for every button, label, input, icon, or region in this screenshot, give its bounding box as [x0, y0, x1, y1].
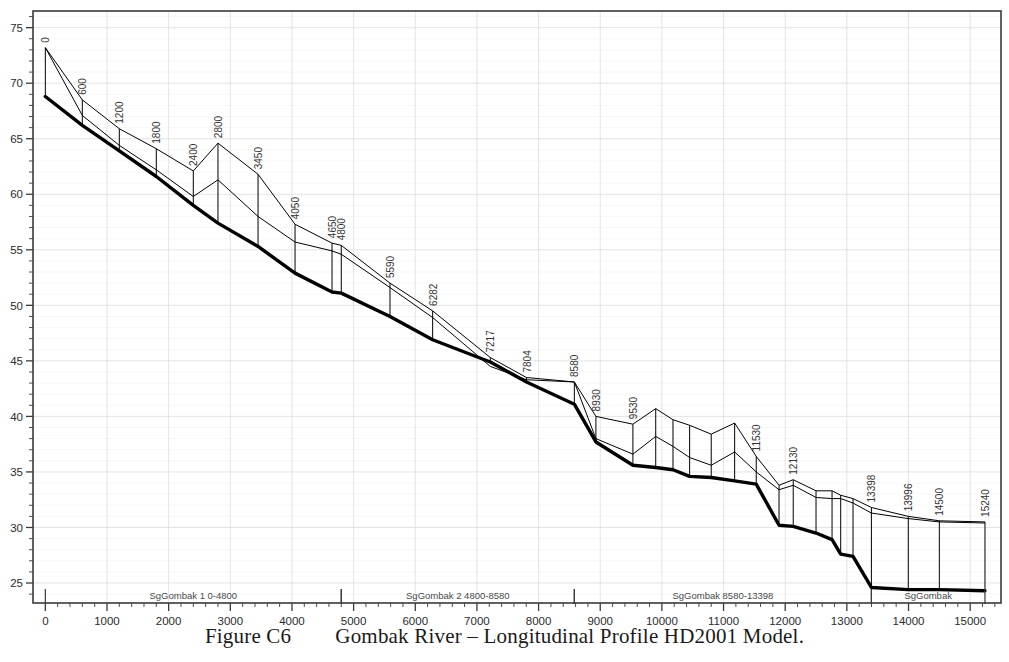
longitudinal-profile-chart: 2530354045505560657075 01000200030004000…	[0, 0, 1009, 628]
reach-label: SgGombak 1 0-4800	[149, 590, 237, 601]
cross-section-label: 4050	[290, 197, 301, 220]
cross-section-label: 2400	[188, 143, 199, 166]
reach-label: SgGombak 8580-13398	[672, 590, 773, 601]
figure-caption: Figure C6Gombak River – Longitudinal Pro…	[0, 624, 1009, 649]
figure-number: Figure C6	[205, 624, 291, 649]
figure-root: 2530354045505560657075 01000200030004000…	[0, 0, 1009, 662]
cross-section-label: 1800	[151, 121, 162, 144]
y-axis-tick-label: 40	[10, 411, 23, 423]
y-axis-tick-label: 50	[10, 300, 23, 312]
cross-section-label: 13398	[866, 474, 877, 502]
cross-section-label: 5590	[385, 255, 396, 278]
y-axis-tick-label: 55	[10, 244, 23, 256]
cross-section-label: 11530	[751, 424, 762, 452]
cross-section-label: 7804	[522, 350, 533, 373]
y-axis-tick-label: 45	[10, 355, 23, 367]
cross-section-label: 13996	[903, 483, 914, 511]
cross-section-label: 7217	[485, 330, 496, 353]
y-axis-tick-label: 35	[10, 466, 23, 478]
y-axis-tick-label: 70	[10, 77, 23, 89]
cross-section-label: 8930	[591, 389, 602, 412]
cross-section-label: 3450	[253, 147, 264, 170]
y-axis-tick-label: 30	[10, 522, 23, 534]
cross-section-label: 600	[77, 78, 88, 95]
reach-label: SgGombak 2 4800-8580	[406, 590, 510, 601]
reach-label: SgGombak	[904, 590, 952, 601]
cross-section-label: 2800	[213, 115, 224, 138]
cross-section-label: 9530	[628, 396, 639, 419]
cross-section-label: 14500	[934, 488, 945, 516]
y-axis-tick-label: 60	[10, 188, 23, 200]
cross-section-label: 4800	[336, 218, 347, 241]
figure-caption-text: Gombak River – Longitudinal Profile HD20…	[335, 624, 804, 648]
cross-section-label: 1200	[114, 101, 125, 124]
cross-section-label: 12130	[788, 446, 799, 474]
cross-section-label: 15240	[980, 489, 991, 517]
cross-section-label: 6282	[428, 283, 439, 306]
y-axis-tick-label: 65	[10, 133, 23, 145]
cross-section-label: 8580	[569, 354, 580, 377]
cross-section-label: 0	[40, 37, 51, 43]
y-axis-tick-label: 75	[10, 22, 23, 34]
y-axis-tick-label: 25	[10, 577, 23, 589]
